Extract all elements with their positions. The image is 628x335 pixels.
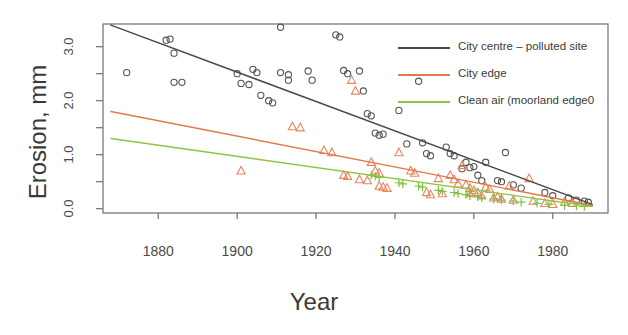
x-tick-label: 1960 [444,243,504,259]
data-point-circle [250,66,256,72]
data-point-triangle [237,166,245,174]
data-point-circle [475,172,481,178]
data-point-triangle [395,148,403,156]
data-point-triangle [363,176,371,184]
data-point-circle [171,50,177,56]
data-point-circle [305,68,311,74]
data-point-circle [494,178,500,184]
erosion-vs-year-chart: Erosion, mm Year 18801900192019401960198… [0,0,628,335]
data-point-circle [416,78,422,84]
data-point-circle [498,179,504,185]
data-point-plus [434,186,442,194]
y-tick-label: 3.0 [61,26,76,66]
data-point-plus [497,196,505,204]
data-point-circle [356,68,362,74]
data-point-triangle [426,190,434,198]
data-point-circle [238,80,244,86]
x-tick-label: 1900 [207,243,267,259]
data-point-plus [466,192,474,200]
data-point-circle [254,70,260,76]
y-tick-label: 2.0 [61,80,76,120]
data-point-plus [509,197,517,205]
legend-label-1: City edge [458,67,507,79]
data-point-circle [309,77,315,83]
legend-label-0: City centre – polluted site [458,40,587,52]
data-point-triangle [296,123,304,131]
data-point-triangle [351,87,359,95]
data-point-circle [179,79,185,85]
x-tick-label: 1920 [286,243,346,259]
data-point-circle [171,79,177,85]
plot-frame [103,24,608,213]
data-point-circle [258,92,264,98]
data-point-circle [345,71,351,77]
data-point-circle [246,81,252,87]
data-point-plus [450,188,458,196]
data-point-circle [380,131,386,137]
data-point-triangle [355,175,363,183]
data-point-circle [341,67,347,73]
data-point-circle [124,70,130,76]
data-point-circle [167,36,173,42]
legend-label-2: Clean air (moorland edge0 [458,94,594,106]
data-point-circle [467,165,473,171]
data-point-plus [533,199,541,207]
y-tick-label: 0.0 [61,188,76,228]
data-point-circle [396,107,402,113]
data-point-circle [277,24,283,30]
data-point-plus [489,195,497,203]
data-point-circle [163,37,169,43]
data-point-circle [277,70,283,76]
trend-line-2 [111,138,592,206]
data-point-plus [478,194,486,202]
data-point-triangle [288,122,296,130]
data-point-circle [518,185,524,191]
data-point-circle [404,141,410,147]
data-point-circle [471,163,477,169]
x-tick-label: 1980 [523,243,583,259]
x-tick-label: 1940 [365,243,425,259]
data-point-plus [454,189,462,197]
x-tick-label: 1880 [128,243,188,259]
data-point-circle [502,149,508,155]
trend-line-1 [111,111,592,205]
data-point-circle [542,189,548,195]
y-tick-label: 1.0 [61,134,76,174]
data-point-circle [360,88,366,94]
data-point-plus [517,198,525,206]
data-point-plus [399,180,407,188]
